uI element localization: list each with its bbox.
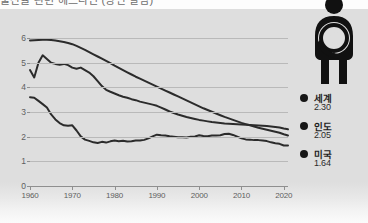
series-line-미국 <box>30 97 288 145</box>
x-tick-mark <box>199 186 200 190</box>
x-tick-mark <box>72 186 73 190</box>
y-tick-mark <box>27 137 30 138</box>
y-axis-tick-label: 2 <box>2 133 26 141</box>
legend-value: 1.64 <box>314 158 331 168</box>
x-tick-mark <box>157 186 158 190</box>
legend-value: 2.30 <box>314 102 331 112</box>
x-tick-mark <box>30 186 31 190</box>
x-tick-mark <box>115 186 116 190</box>
legend-item-world: 세계 2.30 <box>300 92 366 120</box>
x-axis-tick-label: 1970 <box>64 191 81 200</box>
y-tick-mark <box>27 38 30 39</box>
x-axis-tick-label: 1990 <box>148 191 165 200</box>
x-axis-line <box>30 186 288 187</box>
x-axis-tick-label: 2000 <box>191 191 208 200</box>
gridline <box>30 63 288 64</box>
mother-holding-baby-icon <box>306 0 362 88</box>
y-axis-tick-label: 6 <box>2 34 26 42</box>
y-tick-mark <box>27 87 30 88</box>
y-tick-mark <box>27 63 30 64</box>
legend-dot-icon <box>300 150 308 158</box>
panel-bottom-fade <box>0 182 368 223</box>
y-axis-tick-label: 0 <box>2 182 26 190</box>
legend-dot-icon <box>300 122 308 130</box>
chart-legend: 세계 2.30 인도 2.05 미국 1.64 <box>300 92 366 176</box>
gridline <box>30 38 288 39</box>
legend-item-usa: 미국 1.64 <box>300 148 366 176</box>
x-axis-tick-label: 2010 <box>233 191 250 200</box>
y-axis-tick-label: 5 <box>2 59 26 67</box>
y-tick-mark <box>27 112 30 113</box>
x-axis-tick-label: 1980 <box>106 191 123 200</box>
page-title: 출산율 관련 헤드라인 (상단 잘림) <box>0 0 292 9</box>
y-axis-tick-label: 3 <box>2 108 26 116</box>
x-axis-tick-label: 1960 <box>22 191 39 200</box>
y-tick-mark <box>27 161 30 162</box>
legend-dot-icon <box>300 94 308 102</box>
gridline <box>30 161 288 162</box>
series-line-세계 <box>30 55 288 129</box>
y-axis-tick-label: 4 <box>2 83 26 91</box>
y-axis-tick-label: 1 <box>2 157 26 165</box>
plot-area: 65432101960197019801990200020102020 <box>30 38 288 186</box>
x-tick-mark <box>284 186 285 190</box>
legend-item-india: 인도 2.05 <box>300 120 366 148</box>
gridline <box>30 87 288 88</box>
x-tick-mark <box>241 186 242 190</box>
gridline <box>30 137 288 138</box>
infographic-root: 출산율 관련 헤드라인 (상단 잘림) 65432101960197019801… <box>0 0 368 223</box>
gridline <box>30 112 288 113</box>
legend-value: 2.05 <box>314 130 331 140</box>
x-axis-tick-label: 2020 <box>275 191 292 200</box>
